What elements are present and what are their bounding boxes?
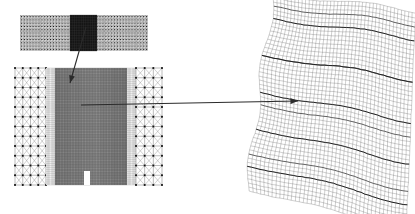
strip-node <box>27 32 28 33</box>
strip-node <box>56 32 57 33</box>
mesh-node <box>14 77 16 79</box>
strip-node <box>27 42 28 43</box>
strip-node <box>105 42 106 43</box>
strip-node <box>123 29 124 30</box>
strip-node <box>65 46 66 47</box>
strip-node <box>134 42 135 43</box>
strip-node <box>99 29 100 30</box>
strip-node <box>44 23 45 24</box>
strip-node <box>126 36 127 37</box>
mesh-node <box>144 87 146 89</box>
strip-node <box>117 23 118 24</box>
strip-node <box>131 16 132 17</box>
strip-node <box>105 36 106 37</box>
mesh-node <box>30 145 32 147</box>
strip-node <box>117 42 118 43</box>
strip-node <box>59 32 60 33</box>
mesh-node <box>135 77 137 79</box>
strip-node <box>111 46 112 47</box>
strip-node <box>53 42 54 43</box>
strip-node <box>65 42 66 43</box>
mesh-node <box>30 96 32 98</box>
strip-node <box>123 26 124 27</box>
strip-node <box>56 36 57 37</box>
strip-node <box>146 26 147 27</box>
strip-node <box>38 42 39 43</box>
strip-node <box>117 49 118 50</box>
mesh-node <box>135 145 137 147</box>
mesh-node <box>144 126 146 128</box>
strip-node <box>33 32 34 33</box>
strip-node <box>126 46 127 47</box>
strip-node <box>30 32 31 33</box>
strip-node <box>129 32 130 33</box>
strip-node <box>134 19 135 20</box>
strip-node <box>126 32 127 33</box>
strip-node <box>131 32 132 33</box>
mesh-node <box>144 145 146 147</box>
mesh-node <box>144 116 146 118</box>
strip-node <box>111 32 112 33</box>
strip-node <box>35 26 36 27</box>
strip-node <box>41 32 42 33</box>
strip-node <box>21 32 22 33</box>
strip-node <box>21 29 22 30</box>
mesh-node <box>144 165 146 167</box>
strip-node <box>120 49 121 50</box>
mesh-node <box>37 77 39 79</box>
strip-node <box>108 26 109 27</box>
strip-node <box>143 46 144 47</box>
strip-node <box>44 46 45 47</box>
strip-node <box>33 42 34 43</box>
strip-node <box>120 46 121 47</box>
strip-node <box>53 19 54 20</box>
mesh-node <box>22 116 24 118</box>
mesh-node <box>152 106 154 108</box>
strip-node <box>24 46 25 47</box>
strip-node <box>99 46 100 47</box>
strip-node <box>126 42 127 43</box>
strip-node <box>62 23 63 24</box>
mesh-node <box>144 135 146 137</box>
strip-node <box>50 16 51 17</box>
strip-node <box>111 23 112 24</box>
strip-node <box>114 23 115 24</box>
strip-node <box>126 29 127 30</box>
strip-node <box>117 19 118 20</box>
strip-node <box>30 23 31 24</box>
strip-node <box>67 16 68 17</box>
strip-node <box>146 23 147 24</box>
strip-node <box>105 49 106 50</box>
strip-node <box>108 16 109 17</box>
strip-node <box>120 29 121 30</box>
strip-node <box>59 36 60 37</box>
mesh-node <box>37 116 39 118</box>
strip-node <box>38 16 39 17</box>
strip-node <box>143 36 144 37</box>
strip-node <box>134 39 135 40</box>
strip-node <box>47 32 48 33</box>
strip-node <box>137 49 138 50</box>
mesh-node <box>135 135 137 137</box>
mesh-node <box>22 77 24 79</box>
strip-node <box>44 29 45 30</box>
strip-node <box>108 32 109 33</box>
strip-node <box>143 42 144 43</box>
strip-node <box>99 32 100 33</box>
strip-node <box>21 16 22 17</box>
strip-node <box>131 49 132 50</box>
strip-node <box>126 23 127 24</box>
strip-node <box>47 23 48 24</box>
mesh-node <box>22 145 24 147</box>
strip-node <box>131 42 132 43</box>
strip-node <box>21 42 22 43</box>
strip-node <box>129 49 130 50</box>
strip-node <box>62 39 63 40</box>
strip-node <box>30 49 31 50</box>
strip-node <box>56 29 57 30</box>
mesh-node <box>22 126 24 128</box>
strip-node <box>59 42 60 43</box>
strip-node <box>146 46 147 47</box>
strip-node <box>114 29 115 30</box>
strip-node <box>24 16 25 17</box>
